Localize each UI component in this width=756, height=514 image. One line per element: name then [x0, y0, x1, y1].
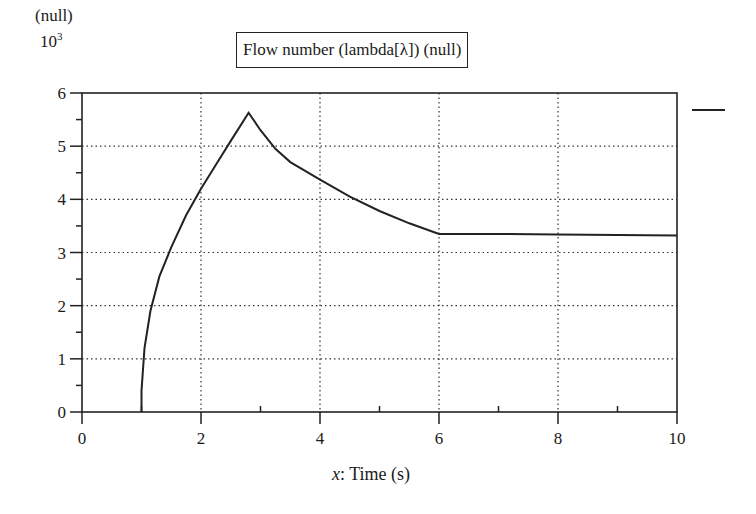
x-axis-var: x	[332, 464, 340, 484]
y-tick-label: 2	[58, 297, 67, 316]
y-tick-label: 6	[58, 84, 67, 103]
x-tick-label: 6	[435, 429, 444, 448]
grid-lines	[82, 93, 677, 412]
x-tick-label: 2	[197, 429, 206, 448]
x-axis-label: x: Time (s)	[332, 464, 410, 485]
tick-labels: 02468100123456	[58, 84, 686, 448]
y-tick-label: 1	[58, 350, 67, 369]
y-tick-label: 0	[58, 403, 67, 422]
y-tick-label: 4	[58, 190, 67, 209]
x-tick-label: 4	[316, 429, 325, 448]
x-axis-text: : Time (s)	[340, 464, 410, 484]
x-tick-label: 0	[78, 429, 87, 448]
y-tick-label: 5	[58, 137, 67, 156]
plot-area: 02468100123456	[0, 0, 756, 514]
ticks	[70, 93, 677, 424]
series-line	[142, 113, 678, 412]
x-tick-label: 8	[554, 429, 563, 448]
y-tick-label: 3	[58, 244, 67, 263]
x-tick-label: 10	[669, 429, 686, 448]
